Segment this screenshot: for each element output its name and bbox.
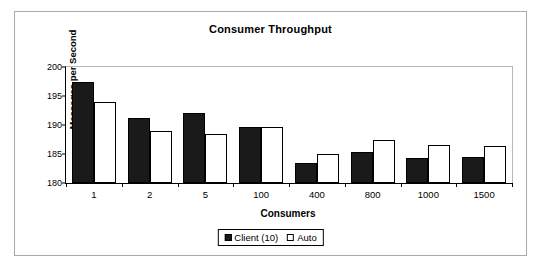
bar-auto-2: [150, 131, 172, 183]
legend-entry-auto: Auto: [287, 232, 317, 243]
y-tick-mark: [62, 154, 66, 155]
bar-auto-400: [317, 154, 339, 183]
plot-area: 18018519019520012510040080010001500: [65, 66, 513, 184]
bar-client-10-2: [128, 118, 150, 183]
y-tick-label: 180: [47, 178, 62, 188]
bar-client-10-1500: [462, 157, 484, 183]
legend-label: Auto: [297, 232, 317, 243]
legend-swatch-filled-square-icon: [224, 234, 231, 241]
x-tick-mark: [122, 183, 123, 187]
bar-client-10-5: [183, 113, 205, 183]
x-tick-mark: [401, 183, 402, 187]
y-tick-label: 200: [47, 62, 62, 72]
legend-label: Client (10): [234, 232, 278, 243]
x-tick-label-1: 1: [91, 189, 96, 200]
bar-auto-1500: [484, 146, 506, 183]
bar-auto-100: [261, 127, 283, 183]
x-tick-label-1000: 1000: [418, 189, 439, 200]
legend-entry-client: Client (10): [224, 232, 278, 243]
y-tick-mark: [62, 67, 66, 68]
x-tick-label-5: 5: [203, 189, 208, 200]
y-tick-mark: [62, 125, 66, 126]
x-tick-label-100: 100: [253, 189, 269, 200]
bar-client-10-800: [351, 152, 373, 183]
chart-title: Consumer Throughput: [15, 23, 526, 35]
legend-swatch-hollow-square-icon: [287, 234, 294, 241]
bar-client-10-1: [72, 82, 94, 184]
x-tick-mark: [345, 183, 346, 187]
x-tick-label-400: 400: [309, 189, 325, 200]
y-tick-mark: [62, 96, 66, 97]
chart-legend: Client (10)Auto: [217, 229, 323, 246]
x-tick-mark: [289, 183, 290, 187]
bar-auto-1000: [428, 145, 450, 183]
y-tick-label: 190: [47, 120, 62, 130]
chart-frame: Consumer Throughput Messages per Second …: [14, 11, 527, 256]
bar-client-10-100: [239, 127, 261, 183]
y-tick-label: 195: [47, 91, 62, 101]
x-tick-mark: [233, 183, 234, 187]
x-tick-label-800: 800: [365, 189, 381, 200]
x-axis-title: Consumers: [65, 208, 511, 219]
bar-auto-800: [373, 140, 395, 183]
x-tick-label-2: 2: [147, 189, 152, 200]
bar-auto-5: [205, 134, 227, 183]
bar-client-10-1000: [406, 158, 428, 183]
x-tick-mark: [178, 183, 179, 187]
x-tick-mark: [456, 183, 457, 187]
x-tick-label-1500: 1500: [474, 189, 495, 200]
x-tick-mark: [512, 183, 513, 187]
bar-auto-1: [94, 102, 116, 183]
x-tick-mark: [66, 183, 67, 187]
bar-client-10-400: [295, 163, 317, 183]
y-tick-label: 185: [47, 149, 62, 159]
